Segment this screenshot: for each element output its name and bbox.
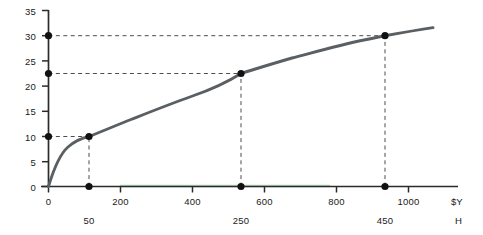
y-tick-label-15: 15 — [14, 106, 36, 117]
y-marker-u30 — [45, 32, 52, 39]
x-tick-label-600: 600 — [256, 196, 272, 207]
y-tick-label-5: 5 — [14, 156, 36, 167]
curve-marker-dots — [85, 32, 388, 140]
x-marker-h250 — [237, 183, 244, 190]
vertical-guide-lines — [89, 36, 385, 187]
x-tick-label-1000: 1000 — [398, 196, 420, 207]
x-axis-ticks — [49, 187, 409, 193]
secondary-x-axis-title: H — [455, 215, 462, 226]
h-tick-label-250: 250 — [233, 215, 249, 226]
x-marker-h50 — [85, 183, 92, 190]
y-tick-label-35: 35 — [14, 5, 36, 16]
x-tick-label-400: 400 — [184, 196, 200, 207]
x-tick-label-800: 800 — [328, 196, 344, 207]
y-marker-u10 — [45, 133, 52, 140]
x-tick-label-0: 0 — [46, 196, 51, 207]
y-marker-u22-5 — [45, 70, 52, 77]
y-tick-label-30: 30 — [14, 30, 36, 41]
utility-curve-figure: Utility 35 30 25 20 15 10 5 0 0 200 400 … — [0, 0, 483, 235]
y-tick-label-10: 10 — [14, 131, 36, 142]
h-tick-label-450: 450 — [377, 215, 393, 226]
h-tick-label-50: 50 — [84, 215, 95, 226]
y-tick-label-20: 20 — [14, 81, 36, 92]
x-marker-h450 — [381, 183, 388, 190]
curve-point-h250 — [237, 70, 244, 77]
curve-point-h450 — [381, 32, 388, 39]
y-tick-label-0: 0 — [14, 181, 36, 192]
y-tick-label-25: 25 — [14, 55, 36, 66]
x-axis-title: $Y — [451, 196, 463, 207]
x-tick-label-200: 200 — [112, 196, 128, 207]
curve-point-h50 — [85, 133, 92, 140]
